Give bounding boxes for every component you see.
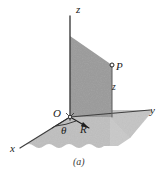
x-axis-label: x (10, 143, 15, 154)
y-axis-label: y (150, 105, 155, 116)
z-axis-label: z (76, 4, 80, 15)
ground-plane-left-wedge (24, 117, 110, 148)
point-p-label: P (116, 61, 123, 72)
radius-r-label: R (80, 124, 87, 135)
height-z-label: z (112, 83, 116, 93)
vertical-half-plane (70, 36, 112, 117)
figure-caption: (a) (73, 157, 85, 167)
point-p-marker (110, 63, 114, 67)
origin-label: O (53, 108, 61, 119)
origin-marker (68, 115, 71, 118)
cylindrical-coordinates-figure: z y x P z O θ R (a) (0, 0, 166, 173)
figure-graphic (0, 0, 166, 173)
angle-theta-label: θ (61, 125, 66, 136)
